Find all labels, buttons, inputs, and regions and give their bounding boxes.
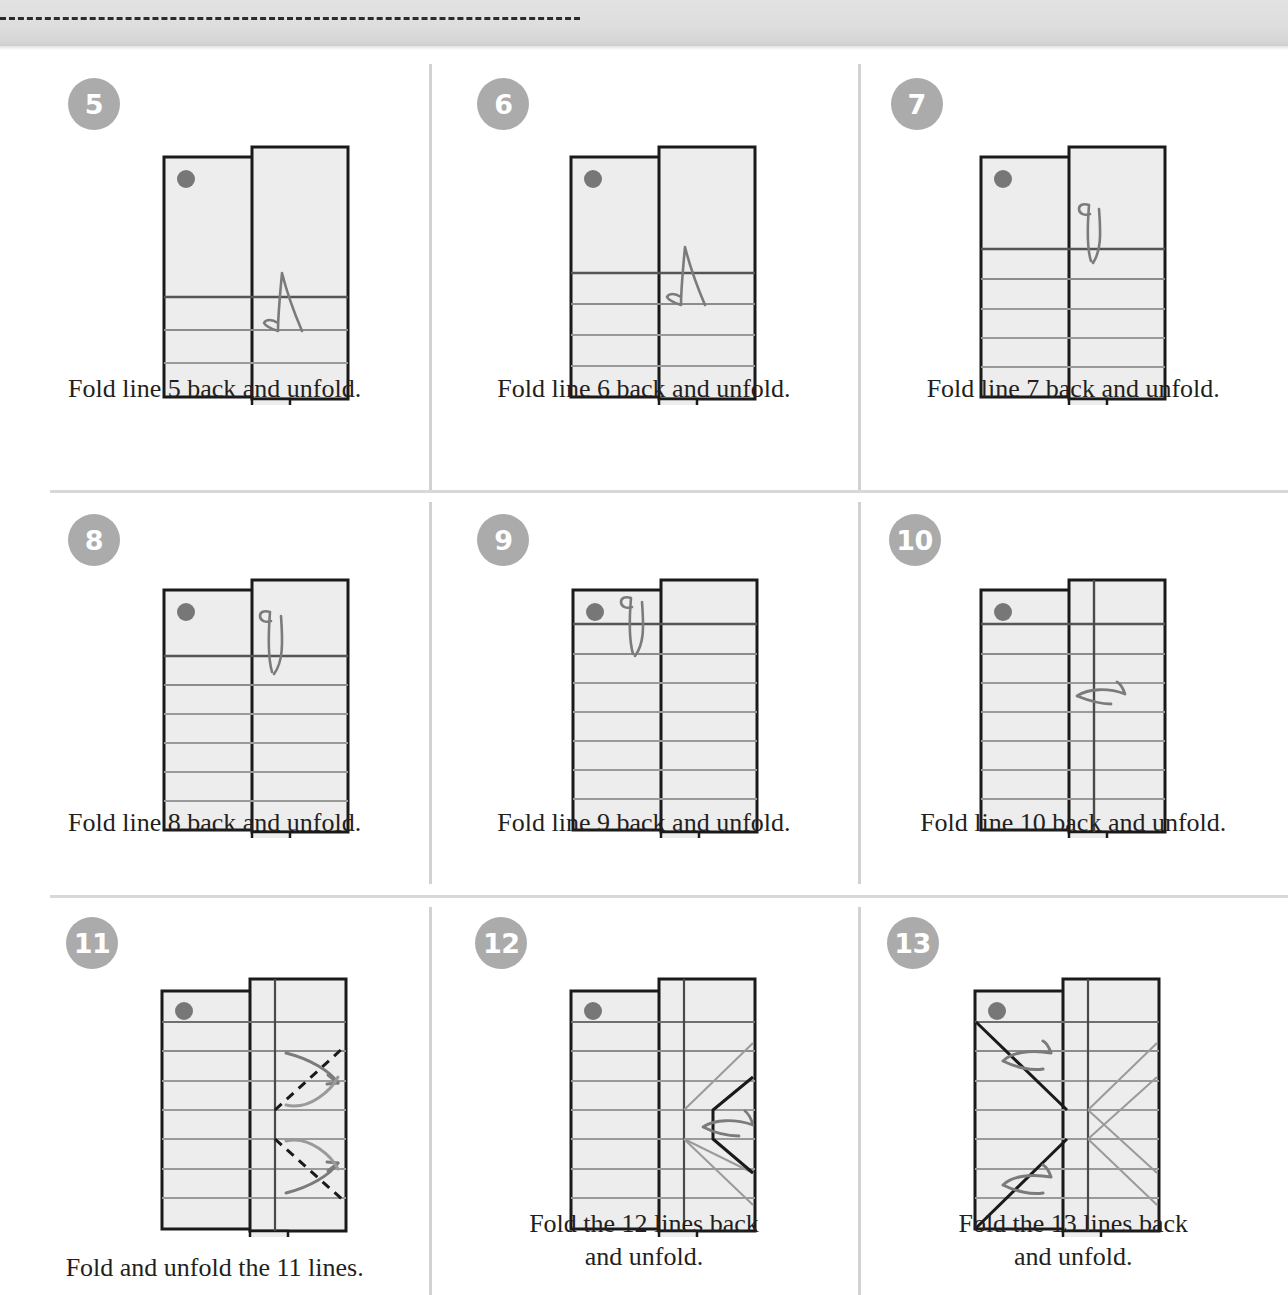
step-cell-7: 7 Fold line 7 back and unfold. (859, 50, 1288, 490)
step-badge-7: 7 (891, 78, 943, 130)
step-diagram-9 (569, 578, 769, 838)
dashed-cut-line (0, 17, 580, 20)
step-cell-6: 6 Fold line 6 back and unfold. (429, 50, 858, 490)
step-diagram-12 (567, 977, 767, 1237)
step-badge-5: 5 (68, 78, 120, 130)
step-cell-10: 10 (859, 490, 1288, 895)
step-diagram-7 (977, 145, 1177, 405)
step-diagram-11 (158, 977, 358, 1237)
top-header-band (0, 0, 1288, 46)
step-caption-12: Fold the 12 lines back and unfold. (429, 1207, 858, 1274)
step-badge-10: 10 (889, 514, 941, 566)
step-caption-13-line-2: and unfold. (859, 1240, 1288, 1273)
step-cell-8: 8 Fold line 8 back and unfold. (0, 490, 429, 895)
instruction-grid: 5 Fold l (0, 50, 1288, 1295)
step-caption-12-line-1: Fold the 12 lines back (429, 1207, 858, 1240)
step-caption-12-line-2: and unfold. (429, 1240, 858, 1273)
step-badge-9: 9 (477, 514, 529, 566)
step-caption-13: Fold the 13 lines back and unfold. (859, 1207, 1288, 1274)
step-caption-11: Fold and unfold the 11 lines. (0, 1251, 429, 1284)
step-badge-6: 6 (477, 78, 529, 130)
step-caption-5: Fold line 5 back and unfold. (0, 372, 429, 405)
step-caption-10: Fold line 10 back and unfold. (859, 806, 1288, 839)
step-caption-8: Fold line 8 back and unfold. (0, 806, 429, 839)
step-cell-5: 5 Fold l (0, 50, 429, 490)
step-cell-11: 11 (0, 895, 429, 1295)
step-diagram-6 (567, 145, 767, 405)
step-caption-7: Fold line 7 back and unfold. (859, 372, 1288, 405)
step-badge-11: 11 (66, 917, 118, 969)
step-caption-6: Fold line 6 back and unfold. (429, 372, 858, 405)
step-caption-13-line-1: Fold the 13 lines back (859, 1207, 1288, 1240)
step-caption-9: Fold line 9 back and unfold. (429, 806, 858, 839)
step-diagram-10 (977, 578, 1177, 838)
step-cell-9: 9 Fold line 9 back and unfold. (429, 490, 858, 895)
step-cell-13: 13 (859, 895, 1288, 1295)
step-row-1: 5 Fold l (0, 50, 1288, 490)
step-row-3: 11 (0, 895, 1288, 1295)
step-cell-12: 12 (429, 895, 858, 1295)
step-diagram-5 (160, 145, 360, 405)
step-badge-8: 8 (68, 514, 120, 566)
step-diagram-13 (971, 977, 1181, 1237)
step-badge-13: 13 (887, 917, 939, 969)
step-row-2: 8 Fold line 8 back and unfold. (0, 490, 1288, 895)
step-badge-12: 12 (475, 917, 527, 969)
step-diagram-8 (160, 578, 360, 838)
